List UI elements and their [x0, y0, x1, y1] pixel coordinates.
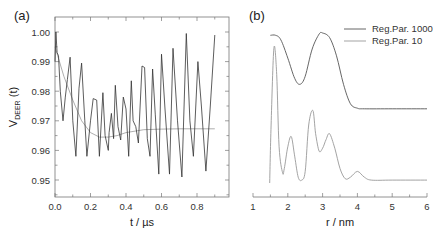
x-axis-title-b: r / nm	[326, 216, 354, 228]
plot-area-a	[55, 32, 215, 177]
y-label-subscript: DEER	[14, 100, 21, 119]
x-tick-label: 6	[424, 201, 429, 212]
panel-b-distance-distribution: (b) 123456 r / nm Reg.Par. 1000 Reg.Par.…	[249, 8, 433, 228]
x-tick-label: 5	[390, 201, 395, 212]
x-tick-label: 3	[320, 201, 325, 212]
series-line	[55, 32, 215, 177]
y-axis-title-a: VDEER (t)	[7, 87, 21, 127]
panel-a-deer-trace: (a) 0.00.20.40.60.8 1.000.990.980.970.96…	[7, 8, 229, 228]
legend-label-regpar-10: Reg.Par. 10	[372, 35, 422, 46]
panel-a-label: (a)	[14, 8, 30, 23]
series-line	[270, 46, 427, 183]
x-tick-label: 1	[250, 201, 255, 212]
x-axis-b: 123456	[250, 193, 429, 212]
y-tick-label: 0.97	[32, 115, 51, 126]
plot-area-b	[270, 32, 427, 183]
plot-frame-a	[55, 17, 229, 197]
y-tick-label: 0.96	[32, 145, 51, 156]
y-label-tail: (t)	[7, 87, 19, 100]
legend: Reg.Par. 1000 Reg.Par. 10	[344, 23, 433, 46]
svg-text:VDEER (t): VDEER (t)	[7, 87, 21, 127]
x-tick-label: 0.2	[84, 201, 97, 212]
x-tick-label: 0.0	[48, 201, 61, 212]
x-tick-label: 0.4	[119, 201, 132, 212]
y-tick-label: 0.98	[32, 86, 51, 97]
figure: (a) 0.00.20.40.60.8 1.000.990.980.970.96…	[0, 0, 443, 235]
legend-label-regpar-1000: Reg.Par. 1000	[372, 23, 433, 34]
x-tick-label: 2	[285, 201, 290, 212]
y-tick-label: 0.95	[32, 175, 51, 186]
panel-b-label: (b)	[249, 8, 265, 23]
y-tick-label: 1.00	[32, 27, 51, 38]
x-axis-title-a: t / µs	[130, 216, 155, 228]
x-tick-label: 0.8	[190, 201, 203, 212]
x-tick-label: 0.6	[155, 201, 168, 212]
x-tick-label: 4	[355, 201, 360, 212]
y-tick-label: 0.99	[32, 56, 51, 67]
